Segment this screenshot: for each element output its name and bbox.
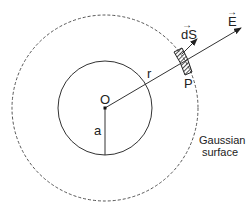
e-field-ray [105,28,241,108]
diagram-canvas [0,0,248,209]
label-radius-a: a [94,124,101,137]
gaussian-line1: Gaussian [199,134,245,146]
label-point-p: P [184,77,193,90]
label-ds-vector: → dS [181,28,197,41]
surface-element-patch [174,48,192,75]
label-e-vector: → E [228,15,237,28]
label-radius-r: r [147,67,151,80]
label-center-o: O [100,93,110,106]
label-gaussian-surface: Gaussian surface [199,134,245,158]
gaussian-line2: surface [199,146,245,158]
vector-arrow-icon: → [227,7,237,17]
vector-arrow-icon: → [182,20,192,30]
gauss-law-diagram: O a r P → dS → E Gaussian surface [0,0,248,209]
